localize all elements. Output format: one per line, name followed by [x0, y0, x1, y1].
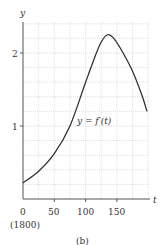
curve-f-prime: [23, 35, 147, 183]
x-tick-label-50: 50: [48, 207, 60, 217]
origin-year-label: (1800): [10, 220, 40, 230]
x-tick-label-0: 0: [20, 207, 26, 217]
x-tick-label-150: 150: [108, 207, 125, 217]
grid: [23, 22, 148, 199]
curve-label: y = f′(t): [76, 116, 112, 126]
y-tick-label-2: 2: [12, 49, 18, 59]
chart: y t 2 1 0 50 100 150 (1800) y = f′(t) (b…: [0, 0, 160, 245]
x-axis-label: t: [153, 195, 157, 205]
x-tick-label-100: 100: [77, 207, 94, 217]
y-tick-label-1: 1: [12, 122, 18, 132]
figure-caption: (b): [76, 236, 89, 245]
y-axis-label: y: [19, 8, 26, 18]
